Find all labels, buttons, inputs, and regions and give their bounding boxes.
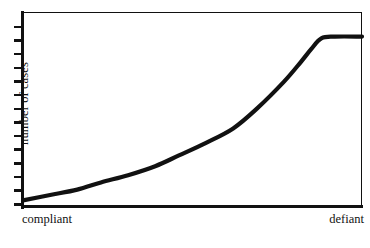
x-axis-label-defiant: defiant: [329, 212, 364, 227]
chart-figure: number of cases compliant defiant: [0, 0, 370, 248]
x-axis-label-compliant: compliant: [22, 212, 72, 227]
y-axis-label: number of cases: [17, 39, 32, 169]
curve-layer: [0, 0, 370, 248]
data-curve-cases: [23, 36, 362, 200]
